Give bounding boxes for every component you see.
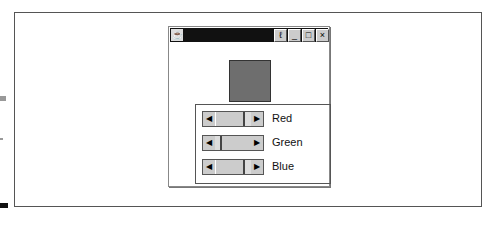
- close-button[interactable]: ×: [316, 29, 329, 42]
- slider-label: Red: [272, 112, 292, 124]
- help-icon[interactable]: ℓ: [274, 29, 287, 42]
- scroll-thumb[interactable]: [215, 112, 245, 126]
- scroll-thumb[interactable]: [215, 160, 245, 174]
- color-swatch: [229, 60, 271, 102]
- red-scrollbar[interactable]: ◀ ▶: [202, 111, 264, 127]
- slider-row-red: ◀ ▶ Red: [202, 111, 322, 127]
- left-arrow-icon[interactable]: ◀: [203, 112, 215, 126]
- slider-label: Green: [272, 136, 303, 148]
- left-arrow-icon[interactable]: ◀: [203, 160, 215, 174]
- right-arrow-icon[interactable]: ▶: [251, 160, 263, 174]
- margin-mark-2: [0, 138, 3, 140]
- title-bar[interactable]: ☕ ℓ _ □ ×: [170, 28, 328, 42]
- minimize-button[interactable]: _: [288, 29, 301, 42]
- margin-mark-1: [0, 96, 6, 101]
- right-arrow-icon[interactable]: ▶: [251, 136, 263, 150]
- margin-mark-3: [0, 203, 8, 208]
- color-slider-window: ☕ ℓ _ □ × ◀ ▶ Red ◀ ▶ Green ◀: [168, 26, 330, 187]
- maximize-button[interactable]: □: [302, 29, 315, 42]
- right-arrow-icon[interactable]: ▶: [251, 112, 263, 126]
- slider-panel: ◀ ▶ Red ◀ ▶ Green ◀ ▶ Blue: [195, 104, 331, 184]
- green-scrollbar[interactable]: ◀ ▶: [202, 135, 264, 151]
- app-icon[interactable]: ☕: [171, 29, 183, 41]
- slider-row-green: ◀ ▶ Green: [202, 135, 322, 151]
- slider-row-blue: ◀ ▶ Blue: [202, 159, 322, 175]
- left-arrow-icon[interactable]: ◀: [203, 136, 215, 150]
- scroll-thumb[interactable]: [220, 136, 252, 150]
- slider-label: Blue: [272, 160, 294, 172]
- blue-scrollbar[interactable]: ◀ ▶: [202, 159, 264, 175]
